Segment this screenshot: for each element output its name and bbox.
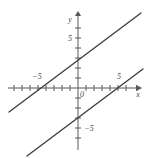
coordinate-plane-svg: y x 0 −5 5 5 −5	[0, 0, 148, 158]
y-tick-label-positive-five: 5	[68, 34, 72, 43]
origin-label: 0	[80, 90, 84, 99]
graph-figure: y x 0 −5 5 5 −5	[0, 0, 148, 158]
x-tick-label-negative-five: −5	[32, 72, 41, 81]
line-lower	[27, 69, 143, 156]
x-tick-label-positive-five: 5	[117, 72, 121, 81]
y-axis-arrowhead	[75, 11, 81, 16]
y-axis-label: y	[67, 15, 72, 24]
x-axis-label: x	[135, 90, 140, 99]
y-tick-label-negative-five: −5	[84, 124, 93, 133]
